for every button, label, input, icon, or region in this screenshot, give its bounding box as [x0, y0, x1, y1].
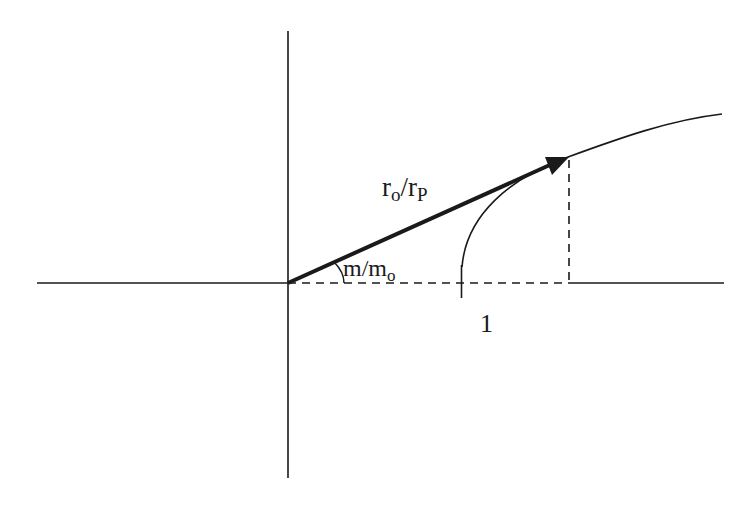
- angle-label: m/mo: [343, 255, 396, 285]
- vector-label: ro/rP: [382, 172, 428, 205]
- diagram-canvas: ro/rP m/mo 1: [0, 0, 748, 510]
- vector-arrow-shaft: [288, 164, 552, 283]
- unit-tick-label: 1: [480, 309, 493, 338]
- curve: [462, 114, 722, 267]
- vector-arrowhead: [545, 157, 569, 175]
